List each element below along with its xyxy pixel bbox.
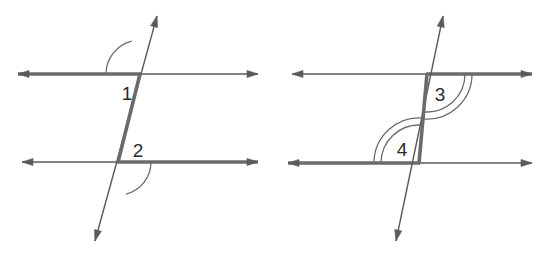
right-diagram: 34 — [288, 16, 532, 241]
transversal-line-left-bottom-arrowhead-icon — [94, 229, 101, 241]
angle-1-label: 1 — [122, 83, 133, 104]
transversal-line-right-top-arrowhead-icon — [437, 16, 444, 28]
top-parallel-line-right-right-arrowhead-icon — [521, 70, 532, 77]
angle-1-label-text: 1 — [122, 83, 133, 104]
angle-1-arc-1 — [106, 41, 132, 74]
angle-3-label: 3 — [435, 84, 446, 105]
angle-4: 4 — [374, 118, 423, 163]
angle-3: 3 — [423, 74, 472, 119]
angle-3-label-text: 3 — [435, 84, 446, 105]
angle-4-label-text: 4 — [397, 139, 408, 160]
angle-2-label: 2 — [133, 140, 144, 161]
bottom-parallel-line-right-left-arrowhead-icon — [288, 159, 299, 166]
top-parallel-line-right-left-arrowhead-icon — [292, 70, 303, 77]
angle-2: 2 — [126, 140, 151, 194]
bottom-parallel-line-left-left-arrowhead-icon — [22, 158, 33, 165]
left-diagram: 12 — [18, 16, 258, 241]
bottom-parallel-line-right-right-arrowhead-icon — [521, 159, 532, 166]
top-parallel-line-right — [292, 70, 532, 77]
parallel-lines-transversal-diagram: 1234 — [0, 0, 549, 262]
transversal-line-right-bottom-arrowhead-icon — [395, 229, 402, 241]
transversal-line-left-top-arrowhead-icon — [151, 16, 158, 28]
transversal-line-left — [94, 16, 157, 241]
geometry-figure-canvas: 1234 — [0, 0, 549, 262]
top-parallel-line-left-right-arrowhead-icon — [247, 70, 258, 77]
top-parallel-line-left-left-arrowhead-icon — [18, 70, 29, 77]
angle-2-label-text: 2 — [133, 140, 144, 161]
bottom-parallel-line-right — [288, 159, 532, 166]
bottom-parallel-line-left-right-arrowhead-icon — [247, 158, 258, 165]
angle-2-arc-1 — [126, 162, 151, 194]
angle-4-label: 4 — [397, 139, 408, 160]
